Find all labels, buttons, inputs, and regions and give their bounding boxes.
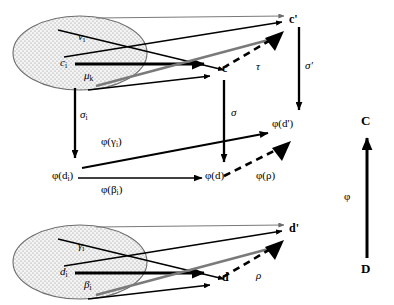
label-phi-beta-i: φ(βi) xyxy=(101,184,122,196)
label-nu-i: νi xyxy=(78,31,85,43)
label-phi-functor: φ xyxy=(344,191,350,202)
label-tau: τ xyxy=(256,61,260,72)
diagram-vector-layer xyxy=(0,0,394,305)
node-phi-d-i: φ(di) xyxy=(52,170,73,182)
label-sigma-i: σi xyxy=(80,109,88,121)
node-phi-d-prime: φ(d') xyxy=(272,118,293,129)
label-beta-i: βi xyxy=(84,279,92,291)
node-c: c xyxy=(222,62,227,74)
node-d: d xyxy=(222,271,229,283)
label-phi-gamma-i: φ(γi) xyxy=(101,136,122,148)
label-sigma: σ xyxy=(231,107,236,118)
label-sigma-prime: σ' xyxy=(305,60,313,71)
node-c-prime: c' xyxy=(289,13,298,25)
label-category-D: D xyxy=(361,262,370,275)
label-d-i: di xyxy=(60,266,68,278)
node-phi-d: φ(d) xyxy=(205,170,224,181)
arrow-gamma-i-to-d-prime xyxy=(96,225,284,227)
label-category-C: C xyxy=(361,114,370,127)
label-c-i: ci xyxy=(60,57,67,69)
label-mu-k: μk xyxy=(84,70,93,82)
label-gamma-i: γi xyxy=(78,240,84,252)
diagram-canvas: νi ci μk σi c c' τ σ σ' φ(γi) φ(βi) φ(di… xyxy=(0,0,394,305)
label-phi-rho: φ(ρ) xyxy=(256,170,275,181)
label-rho: ρ xyxy=(256,270,261,281)
node-d-prime: d' xyxy=(289,222,299,234)
arrow-nu-i-to-c-prime xyxy=(96,16,284,18)
